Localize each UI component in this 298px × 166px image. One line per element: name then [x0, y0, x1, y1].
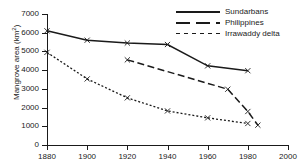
- legend-item-philippines: Philippines: [176, 17, 296, 28]
- data-point-marker: [85, 76, 90, 81]
- data-point-marker: [245, 121, 250, 126]
- legend: Sundarbans Philippines Irrawaddy delta: [176, 6, 296, 39]
- data-point-marker: [255, 123, 260, 128]
- legend-label-philippines: Philippines: [225, 17, 264, 28]
- legend-label-sundarbans: Sundarbans: [225, 6, 268, 17]
- legend-swatch-solid-icon: [176, 11, 220, 13]
- series-line: [47, 52, 248, 123]
- legend-item-sundarbans: Sundarbans: [176, 6, 296, 17]
- legend-swatch-dashed-icon: [176, 22, 220, 24]
- chart-figure: Mangrove area (km2) 01000200030004000500…: [0, 0, 298, 166]
- data-point-marker: [125, 95, 130, 100]
- data-point-marker: [245, 109, 250, 114]
- legend-swatch-dotted-icon: [176, 33, 220, 34]
- data-point-marker: [44, 50, 49, 55]
- legend-item-irrawaddy-delta: Irrawaddy delta: [176, 28, 296, 39]
- data-point-marker: [225, 87, 230, 92]
- series-irrawaddy-delta: [44, 50, 250, 126]
- series-philippines: [125, 57, 261, 128]
- legend-label-irrawaddy-delta: Irrawaddy delta: [225, 28, 280, 39]
